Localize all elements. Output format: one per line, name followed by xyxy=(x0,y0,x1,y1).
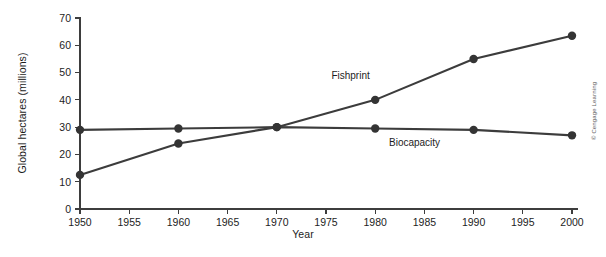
data-point-biocapacity xyxy=(568,131,576,139)
x-tick-label: 1990 xyxy=(462,216,486,228)
series-label-biocapacity: Biocapacity xyxy=(389,137,440,148)
x-tick-label: 1950 xyxy=(68,216,92,228)
data-point-biocapacity xyxy=(273,123,281,131)
y-axis-ticks: 010203040506070 xyxy=(59,12,80,215)
x-tick-label: 1975 xyxy=(314,216,338,228)
x-tick-label: 1965 xyxy=(216,216,240,228)
data-point-biocapacity xyxy=(469,126,477,134)
series-label-fishprint: Fishprint xyxy=(331,70,370,81)
data-point-biocapacity xyxy=(371,124,379,132)
plot-area: 010203040506070 195019551960196519701975… xyxy=(59,12,584,228)
data-point-biocapacity xyxy=(174,124,182,132)
chart-figure: 010203040506070 195019551960196519701975… xyxy=(0,0,606,257)
x-tick-label: 1985 xyxy=(413,216,437,228)
x-axis-title: Year xyxy=(0,228,606,240)
data-point-biocapacity xyxy=(76,126,84,134)
line-chart-plot: 010203040506070 195019551960196519701975… xyxy=(0,0,606,257)
y-tick-label: 70 xyxy=(59,12,71,24)
y-tick-label: 0 xyxy=(65,203,71,215)
y-tick-label: 50 xyxy=(59,66,71,78)
x-tick-label: 1955 xyxy=(118,216,142,228)
y-tick-label: 10 xyxy=(59,176,71,188)
copyright-credit: © Cengage Learning xyxy=(591,82,597,140)
x-tick-label: 1970 xyxy=(265,216,289,228)
data-point-fishprint xyxy=(469,55,477,63)
x-tick-label: 1980 xyxy=(364,216,388,228)
y-tick-label: 20 xyxy=(59,148,71,160)
x-axis-ticks: 1950195519601965197019751980198519901995… xyxy=(68,209,584,228)
y-tick-label: 60 xyxy=(59,39,71,51)
y-tick-label: 40 xyxy=(59,94,71,106)
y-tick-label: 30 xyxy=(59,121,71,133)
data-point-fishprint xyxy=(76,171,84,179)
data-point-fishprint xyxy=(568,32,576,40)
data-point-fishprint xyxy=(371,96,379,104)
y-axis-title: Global hectares (millions) xyxy=(14,4,30,222)
x-tick-label: 1995 xyxy=(511,216,535,228)
x-tick-label: 2000 xyxy=(560,216,584,228)
x-tick-label: 1960 xyxy=(167,216,191,228)
data-point-fishprint xyxy=(174,139,182,147)
